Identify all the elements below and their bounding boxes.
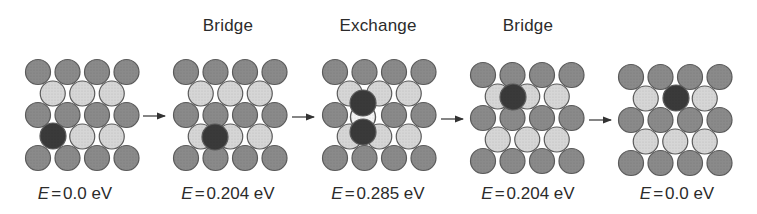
atom-texture (41, 82, 65, 106)
atom-texture (708, 151, 732, 175)
atom-texture (204, 103, 228, 127)
atom-texture (115, 103, 139, 127)
atom-texture (174, 146, 198, 170)
atom-texture (501, 63, 525, 87)
atom-texture (619, 151, 643, 175)
energy-value: 0.285 eV (357, 184, 425, 203)
atom-texture (115, 146, 139, 170)
atom-texture (678, 65, 702, 89)
atom-texture (351, 120, 376, 145)
atom-texture (693, 87, 717, 111)
atom-texture (100, 82, 124, 106)
panel-2-title: Bridge (203, 16, 253, 36)
atom-texture (85, 146, 109, 170)
atom-texture (263, 103, 287, 127)
lattice-panel-5 (619, 65, 733, 176)
equals-sign: = (495, 184, 505, 203)
lattice-panel-1 (26, 60, 140, 171)
atom-texture (26, 60, 50, 84)
atom-texture (233, 60, 257, 84)
atom-texture (248, 125, 272, 149)
atom-texture (708, 65, 732, 89)
atom-texture (397, 82, 421, 106)
atom-texture (26, 103, 50, 127)
atom-texture (412, 103, 436, 127)
lattice-panel-2 (174, 60, 288, 171)
atom-texture (203, 125, 228, 150)
atom-texture (174, 60, 198, 84)
atom-texture (382, 103, 406, 127)
energy-symbol: E (38, 184, 49, 203)
atom-texture (708, 108, 732, 132)
atom-texture (545, 128, 569, 152)
energy-symbol: E (640, 184, 651, 203)
panels-layer (26, 60, 733, 176)
equals-sign: = (51, 184, 61, 203)
atom-texture (85, 60, 109, 84)
atom-texture (353, 60, 377, 84)
panel-3-title: Exchange (339, 16, 416, 36)
atom-texture (56, 103, 80, 127)
lattice-panel-4 (471, 63, 585, 174)
atom-texture (397, 125, 421, 149)
atom-texture (351, 91, 376, 116)
atom-texture (382, 146, 406, 170)
atom-texture (678, 108, 702, 132)
atom-texture (100, 125, 124, 149)
atom-texture (323, 60, 347, 84)
atom-texture (649, 65, 673, 89)
energy-symbol: E (331, 184, 342, 203)
atom-texture (619, 65, 643, 89)
atom-texture (70, 125, 94, 149)
diffusion-diagram: Bridge Exchange Bridge E=0.0 eV E=0.204 … (0, 0, 757, 214)
atom-texture (233, 146, 257, 170)
atom-texture (263, 60, 287, 84)
atom-texture (545, 85, 569, 109)
atom-texture (263, 146, 287, 170)
panel-2-energy-label: E=0.204 eV (181, 184, 274, 204)
lattice-panel-3 (323, 60, 437, 171)
atom-texture (471, 63, 495, 87)
atom-texture (323, 103, 347, 127)
atom-texture (560, 63, 584, 87)
atom-texture (218, 82, 242, 106)
equals-sign: = (195, 184, 205, 203)
panel-4-title: Bridge (503, 16, 553, 36)
equals-sign: = (653, 184, 663, 203)
energy-value: 0.204 eV (207, 184, 275, 203)
atom-texture (560, 149, 584, 173)
atom-texture (634, 87, 658, 111)
atom-texture (560, 106, 584, 130)
energy-symbol: E (481, 184, 492, 203)
atom-texture (26, 146, 50, 170)
atom-texture (693, 130, 717, 154)
atom-texture (501, 149, 525, 173)
panel-4-energy-label: E=0.204 eV (481, 184, 574, 204)
atom-texture (248, 82, 272, 106)
atom-texture (412, 146, 436, 170)
atom-texture (619, 108, 643, 132)
atom-texture (649, 151, 673, 175)
atom-texture (204, 60, 228, 84)
atom-texture (634, 130, 658, 154)
atom-texture (530, 149, 554, 173)
atom-texture (649, 108, 673, 132)
atom-texture (471, 149, 495, 173)
atom-texture (663, 130, 687, 154)
atom-texture (56, 60, 80, 84)
energy-value: 0.204 eV (507, 184, 575, 203)
energy-value: 0.0 eV (665, 184, 714, 203)
atom-texture (70, 82, 94, 106)
energy-value: 0.0 eV (63, 184, 112, 203)
equals-sign: = (345, 184, 355, 203)
atom-texture (85, 103, 109, 127)
atom-texture (174, 103, 198, 127)
atom-texture (678, 151, 702, 175)
atom-texture (323, 146, 347, 170)
atom-texture (353, 146, 377, 170)
atom-texture (412, 60, 436, 84)
atom-texture (501, 85, 526, 110)
atom-texture (471, 106, 495, 130)
atom-texture (515, 128, 539, 152)
atom-texture (115, 60, 139, 84)
